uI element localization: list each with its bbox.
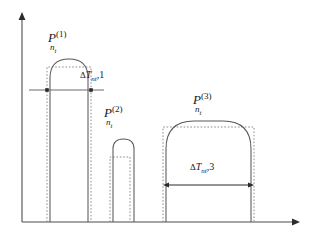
pulse-1-label-subsubscript: t [55,47,57,55]
pulse-1-label-subscript-group: nt [50,43,66,55]
pulse-1-label-superscript: (1) [56,29,67,39]
pulse-1-curve [50,59,88,222]
duration-1-index: ,1 [97,69,105,80]
pulse-2-label: P(2) nt [104,105,122,130]
threshold-marker-right [89,88,93,92]
duration-3-index: ,3 [207,161,215,172]
threshold-group [29,88,104,92]
pulse-diagram: P(1) nt P(2) nt P(3) nt ΔTnt,1 ΔTnt,3 [0,0,310,245]
pulse-2-group [110,139,134,222]
y-axis-arrowhead-icon [19,12,26,20]
x-axis-arrowhead-icon [292,219,300,226]
pulse-3-label: P(3) nt [193,92,211,117]
duration-3-label: ΔTnt,3 [190,162,214,175]
pulse-3-label-subsubscript: t [200,109,202,117]
pulse-1-group [47,59,91,222]
diagram-canvas [0,0,310,245]
pulse-1-label: P(1) nt [48,30,66,55]
pulse-2-label-subscript-group: nt [106,118,122,130]
pulse-3-label-superscript: (3) [201,91,212,101]
pulse-3-label-subscript-group: nt [195,105,211,117]
pulse-2-curve [113,139,134,222]
threshold-marker-left [45,88,49,92]
pulse-2-label-subsubscript: t [111,122,113,130]
pulse-2-label-superscript: (2) [112,104,123,114]
duration-1-label: ΔTnt,1 [80,70,104,83]
